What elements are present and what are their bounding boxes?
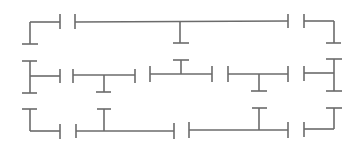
diagram-canvas bbox=[0, 0, 361, 153]
line-segment bbox=[75, 21, 288, 22]
